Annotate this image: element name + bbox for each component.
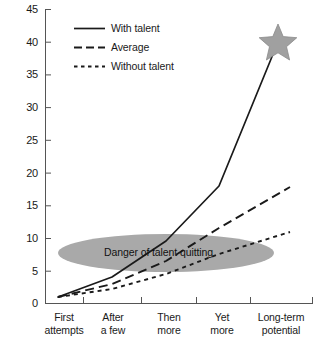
- legend-label-with-talent: With talent: [111, 23, 160, 34]
- y-tick-label-10: 10: [8, 233, 38, 244]
- x-tick-label-after-a-few-line2: a few: [83, 324, 143, 337]
- legend-label-without-talent: Without talent: [111, 61, 174, 72]
- y-tick-label-0: 0: [8, 298, 38, 309]
- x-tick-label-long-term-potential-line1: Long-term: [245, 311, 317, 324]
- y-tick-label-20: 20: [8, 168, 38, 179]
- legend-label-average: Average: [111, 42, 149, 53]
- y-tick-label-35: 35: [8, 69, 38, 80]
- x-tick-label-after-a-few-line1: After: [83, 311, 143, 324]
- y-tick-label-45: 45: [8, 4, 38, 15]
- x-tick-label-yet-more-line1: Yet: [194, 311, 250, 324]
- legend-keys: [74, 29, 105, 67]
- x-tick-label-yet-more: Yet more: [194, 311, 250, 336]
- y-axis-ticks: [46, 10, 52, 304]
- talent-growth-chart: 45 40 35 30 25 20 15 10 5 0 First attemp…: [0, 0, 317, 354]
- y-tick-label-15: 15: [8, 200, 38, 211]
- x-tick-label-then-more-line2: more: [140, 324, 198, 337]
- x-tick-label-after-a-few: After a few: [83, 311, 143, 336]
- y-tick-label-25: 25: [8, 135, 38, 146]
- danger-zone-label: Danger of talent quitting: [104, 247, 213, 258]
- x-tick-label-long-term-potential-line2: potential: [245, 324, 317, 337]
- x-tick-label-then-more: Then more: [140, 311, 198, 336]
- x-tick-label-long-term-potential: Long-term potential: [245, 311, 317, 336]
- y-tick-label-5: 5: [8, 266, 38, 277]
- x-axis-ticks: [46, 297, 313, 304]
- star-marker-icon: [259, 24, 297, 60]
- y-tick-label-40: 40: [8, 37, 38, 48]
- chart-plot-area: [0, 0, 317, 354]
- x-tick-label-yet-more-line2: more: [194, 324, 250, 337]
- y-tick-label-30: 30: [8, 102, 38, 113]
- x-tick-label-then-more-line1: Then: [140, 311, 198, 324]
